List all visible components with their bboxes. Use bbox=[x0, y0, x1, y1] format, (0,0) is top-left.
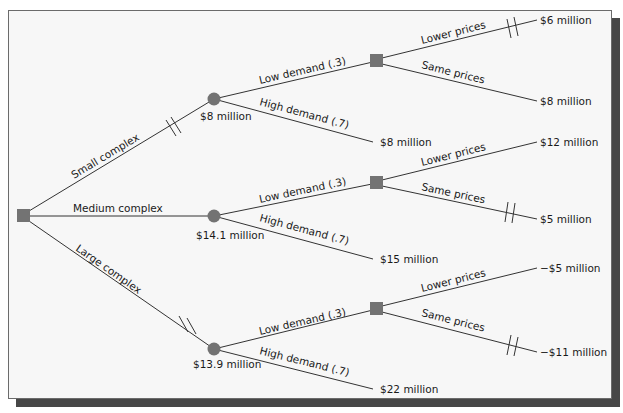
terminal-value: $12 million bbox=[540, 136, 598, 148]
option-label-same-prices: Same prices bbox=[421, 306, 487, 333]
pruned-mark-icon bbox=[179, 316, 196, 334]
chance-value-small: $8 million bbox=[200, 110, 252, 122]
chance-node-small bbox=[208, 93, 221, 106]
terminal-value: $5 million bbox=[540, 213, 592, 225]
decision-node-medium bbox=[370, 176, 383, 189]
chance-value-medium: $14.1 million bbox=[196, 229, 264, 241]
chance-node-large bbox=[208, 343, 221, 356]
outcome-label-low-demand: Low demand (.3) bbox=[258, 305, 347, 337]
outcome-label-high-demand: High demand (.7) bbox=[258, 95, 350, 130]
terminal-value: $8 million bbox=[380, 136, 432, 148]
decision-node-large bbox=[370, 302, 383, 315]
terminal-value: $15 million bbox=[380, 253, 438, 265]
chance-node-medium bbox=[208, 210, 221, 223]
root-decision-node bbox=[17, 209, 30, 222]
branch-large-complex: Large complex bbox=[29, 221, 214, 349]
terminal-value: −$5 million bbox=[540, 262, 600, 274]
decision-tree: Small complex Medium complex Large compl… bbox=[0, 0, 623, 413]
branch-label-small-complex: Small complex bbox=[69, 131, 141, 181]
branch-label-large-complex: Large complex bbox=[74, 242, 144, 296]
option-label-lower-prices: Lower prices bbox=[420, 18, 487, 46]
outcome-label-low-demand: Low demand (.3) bbox=[258, 54, 347, 86]
terminal-value: $8 million bbox=[540, 95, 592, 107]
branch-medium-complex: Medium complex bbox=[29, 202, 214, 216]
branch-small-complex: Small complex bbox=[29, 99, 214, 211]
subtree-medium: Low demand (.3) High demand (.7) $14.1 m… bbox=[196, 136, 598, 265]
subtree-small: Low demand (.3) High demand (.7) $8 mill… bbox=[200, 14, 592, 148]
outcome-label-high-demand: High demand (.7) bbox=[258, 211, 350, 246]
terminal-value: −$11 million bbox=[540, 346, 607, 358]
option-label-lower-prices: Lower prices bbox=[420, 266, 487, 294]
outcome-label-high-demand: High demand (.7) bbox=[259, 344, 351, 378]
outcome-label-low-demand: Low demand (.3) bbox=[258, 175, 347, 205]
terminal-value: $22 million bbox=[380, 383, 438, 395]
decision-node-small bbox=[370, 54, 383, 67]
chance-value-large: $13.9 million bbox=[193, 358, 261, 370]
pruned-mark-icon bbox=[505, 202, 515, 223]
terminal-value: $6 million bbox=[540, 14, 592, 26]
pruned-mark-icon bbox=[507, 17, 518, 38]
subtree-large: Low demand (.3) High demand (.7) $13.9 m… bbox=[193, 262, 607, 395]
branch-label-medium-complex: Medium complex bbox=[73, 202, 163, 214]
